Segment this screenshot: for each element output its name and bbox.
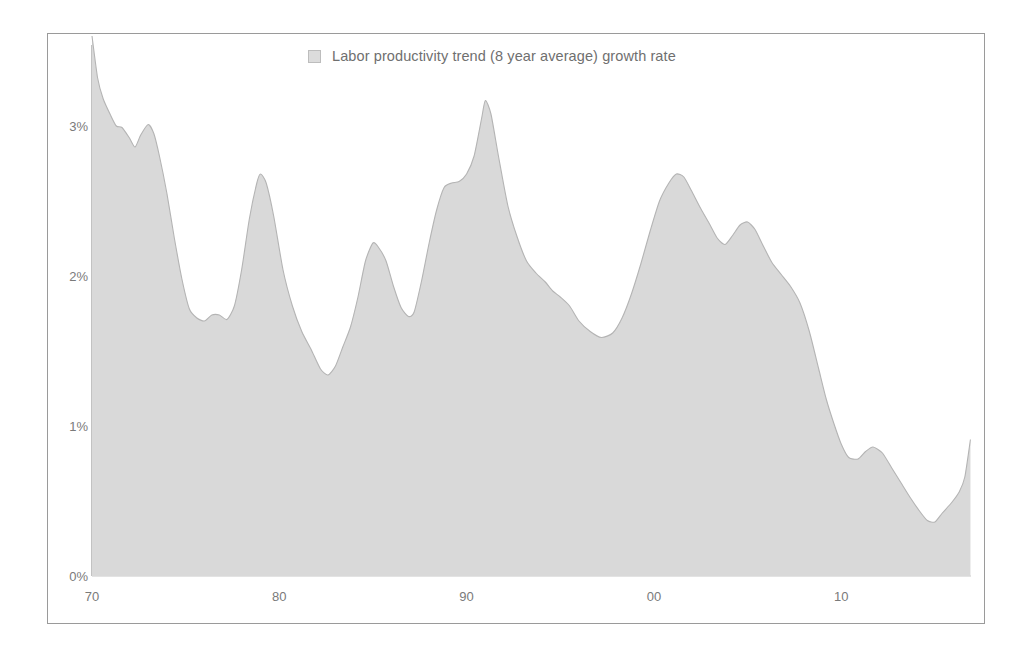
x-tick-label-80: 80: [249, 589, 309, 604]
legend-swatch-icon: [308, 50, 321, 63]
x-tick-label-10: 10: [811, 589, 871, 604]
chart-figure: 3% 2% 1% 0% 70 80 90 00 10 Labor product…: [0, 0, 1033, 660]
x-tick-label-70: 70: [62, 589, 122, 604]
legend-label: Labor productivity trend (8 year average…: [332, 48, 676, 64]
x-tick-label-90: 90: [437, 589, 497, 604]
chart-legend: Labor productivity trend (8 year average…: [308, 48, 676, 64]
x-axis-tick-labels: 70 80 90 00 10: [0, 0, 1033, 660]
x-tick-label-00: 00: [624, 589, 684, 604]
